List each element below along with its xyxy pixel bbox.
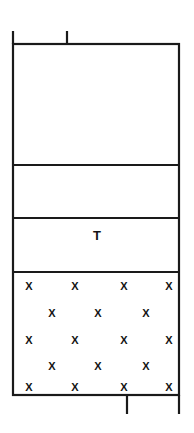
hatch-x-mark: X [48, 307, 56, 319]
hatch-x-mark: X [25, 334, 33, 346]
hatch-x-mark: X [165, 334, 173, 346]
hatch-x-mark: X [71, 280, 79, 292]
column-bands-group [13, 44, 179, 395]
band-2 [13, 165, 179, 218]
hatch-x-mark: X [71, 334, 79, 346]
hatch-x-mark: X [142, 307, 150, 319]
hatch-x-mark: X [165, 280, 173, 292]
hatch-x-mark: X [142, 360, 150, 372]
band-4 [13, 272, 179, 395]
hatch-x-mark: X [94, 307, 102, 319]
hatch-x-mark: X [25, 280, 33, 292]
hatch-x-mark: X [25, 381, 33, 393]
hatch-x-mark: X [71, 381, 79, 393]
hatch-x-mark: X [120, 334, 128, 346]
stratigraphic-column-diagram: XXXXXXXXXXXXXXXXXX T [0, 0, 194, 433]
hatch-x-mark: X [165, 381, 173, 393]
hatch-x-mark: X [120, 280, 128, 292]
band-label-t: T [93, 228, 101, 243]
hatch-x-mark: X [48, 360, 56, 372]
band-3 [13, 218, 179, 272]
hatch-x-mark: X [94, 360, 102, 372]
hatch-x-mark: X [120, 381, 128, 393]
band-labels-group: T [93, 228, 101, 243]
band-1 [13, 44, 179, 165]
figure-container: XXXXXXXXXXXXXXXXXX T [0, 0, 194, 433]
